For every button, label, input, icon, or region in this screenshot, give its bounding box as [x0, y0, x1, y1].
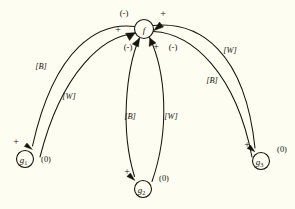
sign-f-upper-right: +: [160, 8, 166, 19]
edge-label-left-outer: [B]: [35, 62, 47, 71]
signal-flow-graph: f g1 g2 g3 (0) (0) (0) [B] [W] [B] [W] […: [0, 0, 295, 209]
sign-g1-arrow: +: [13, 136, 19, 147]
edge-label-right-outer: [W]: [223, 46, 237, 55]
node-value-g2: (0): [159, 174, 169, 183]
edge-label-mid-right: [W]: [164, 112, 178, 121]
sign-g2-arrow: +: [124, 166, 130, 177]
arrowhead-into-g1: [24, 143, 32, 150]
arrowhead-into-f-from-g1: [126, 33, 136, 41]
edge-g1-f-inner: [40, 34, 134, 158]
sign-f-left: +: [115, 24, 121, 35]
node-value-g3: (0): [277, 145, 287, 154]
sign-g3-arrow: +: [244, 139, 250, 150]
node-value-g1: (0): [41, 155, 51, 164]
edge-label-left-inner: [W]: [62, 92, 76, 101]
diagram-canvas: f g1 g2 g3 (0) (0) (0) [B] [W] [B] [W] […: [0, 0, 295, 209]
edge-f-g1-outer: [33, 26, 135, 146]
arrowhead-into-f-from-below-left: [132, 38, 140, 47]
edge-f-g2-left: [126, 38, 139, 176]
arrowhead-into-f-from-g3: [154, 22, 164, 31]
sign-f-lower-left: (-): [124, 42, 133, 52]
sign-f-lower-right: (-): [169, 42, 178, 52]
sign-f-upper-left: (-): [120, 8, 129, 18]
edge-g2-f-right: [150, 38, 164, 182]
edge-label-mid-left: [B]: [124, 112, 136, 121]
sign-f-lower-mid: +: [153, 41, 159, 52]
edge-label-right-inner: [B]: [206, 76, 218, 85]
